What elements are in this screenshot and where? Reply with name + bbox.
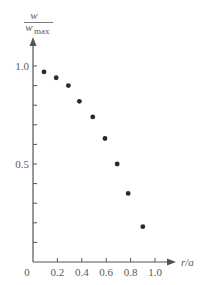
y-tick-label: 1.0 — [15, 60, 29, 72]
x-tick-label: 0 — [24, 266, 30, 278]
y-tick-label: 0.5 — [15, 158, 29, 170]
data-point — [66, 83, 71, 88]
x-axis-arrow-icon — [167, 259, 176, 266]
data-point — [103, 136, 108, 141]
axes — [30, 37, 177, 266]
data-point — [126, 191, 131, 196]
data-point — [77, 99, 82, 104]
data-point — [90, 115, 95, 120]
y-label-numerator: w — [30, 9, 38, 21]
scatter-chart: w w max 00.20.40.60.81.0 0.51.0 r/a — [0, 0, 203, 285]
data-point — [115, 162, 120, 167]
data-point — [42, 69, 47, 74]
x-tick-label: 0.2 — [51, 266, 65, 278]
x-tick-label: 1.0 — [148, 266, 162, 278]
y-label-denominator: w — [25, 21, 33, 33]
y-ticks: 0.51.0 — [15, 60, 37, 242]
y-axis-arrow-icon — [30, 37, 37, 46]
x-ticks: 00.20.40.60.81.0 — [24, 258, 162, 278]
x-tick-label: 0.4 — [75, 266, 89, 278]
x-tick-label: 0.8 — [124, 266, 138, 278]
data-point — [54, 75, 59, 80]
x-tick-label: 0.6 — [99, 266, 113, 278]
y-axis-label: w w max — [24, 9, 53, 36]
data-points — [42, 69, 146, 229]
data-point — [140, 224, 145, 229]
y-label-subscript: max — [34, 26, 50, 36]
x-axis-label: r/a — [181, 256, 194, 268]
